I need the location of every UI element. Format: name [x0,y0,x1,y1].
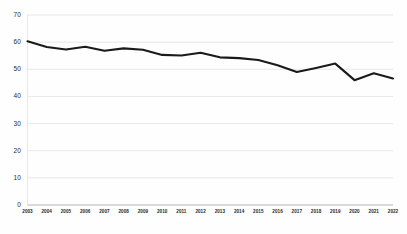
x-tick-label: 2012 [191,209,211,214]
x-tick-label: 2004 [37,209,57,214]
y-tick-label: 10 [3,174,21,181]
x-tick-label: 2017 [287,209,307,214]
y-tick-label: 40 [3,92,21,99]
line-chart: 010203040506070 200320042005200620072008… [0,0,407,234]
x-tick-label: 2016 [268,209,288,214]
gridlines [28,15,394,205]
x-tick-label: 2003 [18,209,38,214]
x-tick-label: 2021 [364,209,384,214]
series-line-0 [28,41,394,80]
y-tick-label: 70 [3,11,21,18]
x-tick-label: 2014 [229,209,249,214]
x-tick-label: 2019 [325,209,345,214]
x-tick-label: 2018 [306,209,326,214]
x-tick-label: 2005 [56,209,76,214]
x-tick-label: 2008 [114,209,134,214]
x-tick-label: 2010 [152,209,172,214]
y-tick-label: 0 [3,201,21,208]
x-tick-label: 2020 [345,209,365,214]
x-tick-label: 2022 [383,209,403,214]
y-tick-label: 60 [3,38,21,45]
y-tick-label: 50 [3,65,21,72]
y-tick-label: 20 [3,147,21,154]
x-tick-label: 2013 [210,209,230,214]
x-tick-label: 2009 [133,209,153,214]
x-tick-label: 2011 [171,209,191,214]
data-series [28,41,394,80]
chart-plot-area [0,0,407,234]
x-tick-label: 2015 [248,209,268,214]
x-tick-label: 2006 [75,209,95,214]
y-tick-label: 30 [3,120,21,127]
x-tick-label: 2007 [94,209,114,214]
